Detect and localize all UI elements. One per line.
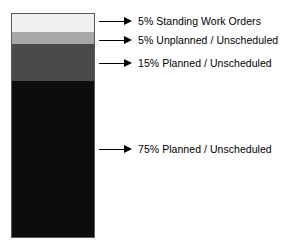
stacked-bar-chart: 5% Standing Work Orders 5% Unplanned / U… xyxy=(0,0,307,248)
bar-segment-unplanned-unscheduled xyxy=(12,32,94,44)
callout-planned-unscheduled-15: 15% Planned / Unscheduled xyxy=(99,55,272,71)
callout-planned-unscheduled-75: 75% Planned / Unscheduled xyxy=(99,141,272,157)
callout-label: 5% Unplanned / Unscheduled xyxy=(138,34,278,46)
callout-standing-work-orders: 5% Standing Work Orders xyxy=(99,13,261,29)
stacked-bar-column xyxy=(11,13,95,238)
callout-label: 5% Standing Work Orders xyxy=(138,15,261,27)
callout-unplanned-unscheduled: 5% Unplanned / Unscheduled xyxy=(99,32,278,48)
bar-segment-planned-unscheduled-15 xyxy=(12,44,94,81)
callout-label: 75% Planned / Unscheduled xyxy=(138,143,272,155)
callout-label: 15% Planned / Unscheduled xyxy=(138,57,272,69)
arrow-icon xyxy=(99,141,132,157)
arrow-icon xyxy=(99,55,132,71)
bar-segment-planned-unscheduled-75 xyxy=(12,81,94,237)
arrow-icon xyxy=(99,13,132,29)
arrow-icon xyxy=(99,32,132,48)
bar-segment-standing-work-orders xyxy=(12,14,94,32)
